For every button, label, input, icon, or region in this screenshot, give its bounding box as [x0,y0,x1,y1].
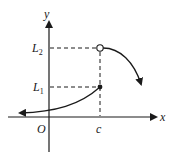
discontinuity-diagram: y x O c L2 L1 [0,0,170,162]
l1-tick-label: L1 [32,80,44,96]
c-tick-label: c [96,122,102,136]
origin-label: O [37,122,46,136]
x-axis-arrow-icon [150,113,158,121]
x-axis-label: x [159,110,166,124]
y-axis-label: y [43,7,50,21]
l2-tick-label: L2 [31,41,43,57]
left-limit-filled-point [98,85,103,90]
left-branch-curve [20,87,100,113]
l2-sub: 2 [39,48,43,57]
right-branch-curve [103,48,141,84]
diagram-svg: y x O c L2 L1 [0,0,170,162]
y-axis-arrow-icon [45,20,53,28]
right-limit-open-point [97,45,103,51]
l1-sub: 1 [40,87,44,96]
